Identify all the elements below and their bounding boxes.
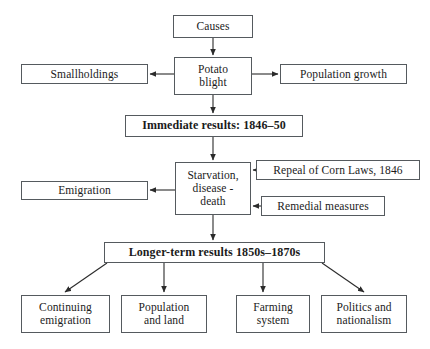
node-farming-system-label: Farming system — [250, 301, 296, 327]
node-starvation-disease-death-label: Starvation, disease - death — [184, 169, 241, 208]
node-repeal-of-corn-laws: Repeal of Corn Laws, 1846 — [256, 160, 420, 180]
node-repeal-of-corn-laws-label: Repeal of Corn Laws, 1846 — [270, 164, 405, 177]
node-longer-term-results: Longer-term results 1850s–1870s — [104, 242, 325, 263]
node-potato-blight-label: Potato blight — [195, 63, 231, 89]
node-population-and-land: Population and land — [121, 295, 207, 333]
node-remedial-measures-label: Remedial measures — [274, 200, 371, 213]
node-causes-label: Causes — [193, 20, 232, 33]
node-immediate-results: Immediate results: 1846–50 — [125, 115, 303, 137]
node-starvation-disease-death: Starvation, disease - death — [175, 162, 251, 215]
node-population-growth: Population growth — [280, 64, 407, 84]
node-continuing-emigration-label: Continuing emigration — [36, 301, 95, 327]
node-smallholdings-label: Smallholdings — [48, 68, 122, 81]
node-population-and-land-label: Population and land — [136, 301, 193, 327]
node-continuing-emigration: Continuing emigration — [21, 295, 110, 333]
node-longer-term-results-label: Longer-term results 1850s–1870s — [126, 246, 304, 259]
node-smallholdings: Smallholdings — [21, 64, 148, 84]
node-population-growth-label: Population growth — [297, 68, 390, 81]
node-causes: Causes — [173, 15, 253, 38]
node-remedial-measures: Remedial measures — [261, 196, 385, 216]
node-emigration: Emigration — [21, 181, 148, 200]
node-farming-system: Farming system — [236, 295, 310, 333]
node-politics-and-nationalism-label: Politics and nationalism — [333, 301, 394, 327]
node-potato-blight: Potato blight — [174, 57, 252, 95]
edge-longer-to-continuing-emigration — [65, 263, 107, 292]
node-immediate-results-label: Immediate results: 1846–50 — [139, 119, 289, 132]
node-politics-and-nationalism: Politics and nationalism — [321, 295, 407, 333]
edge-longer-to-politics-nationalism — [322, 263, 364, 292]
flowchart-diagram: Causes Potato blight Smallholdings Popul… — [0, 0, 430, 349]
node-emigration-label: Emigration — [55, 184, 114, 197]
